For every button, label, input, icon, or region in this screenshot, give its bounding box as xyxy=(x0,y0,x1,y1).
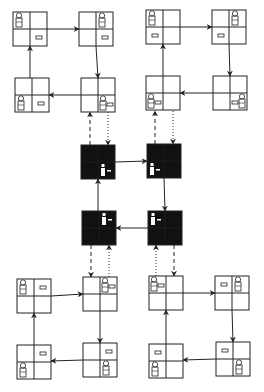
agent-icon xyxy=(150,163,154,175)
grid-state-box xyxy=(215,276,249,310)
transition-arrow-solid xyxy=(232,310,233,342)
bottom-right-cycle xyxy=(149,276,250,378)
bottom-left-cycle xyxy=(17,277,117,379)
transition-arrow-solid xyxy=(51,294,83,296)
transition-arrow-solid xyxy=(183,359,216,360)
grid-state-box xyxy=(79,12,113,46)
transition-arrow-solid xyxy=(229,44,230,76)
grid-state-box xyxy=(146,10,180,44)
abstract-state-box xyxy=(147,144,181,178)
grid-state-box xyxy=(15,78,49,112)
arrows-layer xyxy=(30,27,233,361)
grid-state-box xyxy=(83,277,117,311)
transition-arrow-solid xyxy=(115,161,147,162)
boxes-layer xyxy=(13,10,250,379)
center-abstract-cycle xyxy=(81,144,182,245)
grid-state-box xyxy=(213,76,247,110)
grid-state-box xyxy=(149,276,183,310)
top-right-cycle xyxy=(146,10,247,110)
grid-state-box xyxy=(17,279,51,313)
grid-state-box xyxy=(146,76,180,110)
agent-icon xyxy=(151,213,155,225)
grid-state-box xyxy=(83,343,117,377)
top-left-cycle xyxy=(13,12,115,112)
grid-state-box xyxy=(13,12,47,46)
state-transition-diagram xyxy=(0,0,264,392)
transition-arrow-solid xyxy=(164,178,165,211)
agent-icon xyxy=(102,213,106,225)
abstract-state-box xyxy=(81,145,115,179)
grid-state-box xyxy=(216,342,250,376)
key-icon xyxy=(156,169,160,171)
grid-state-box xyxy=(149,344,183,378)
agent-icon xyxy=(101,164,105,176)
key-icon xyxy=(157,219,161,221)
abstract-state-box xyxy=(148,211,182,245)
key-icon xyxy=(107,170,111,172)
transition-arrow-solid xyxy=(96,46,98,78)
transition-arrow-solid xyxy=(51,360,83,361)
grid-state-box xyxy=(17,345,51,379)
grid-state-box xyxy=(81,78,115,112)
abstract-state-box xyxy=(82,211,116,245)
key-icon xyxy=(108,219,112,221)
grid-state-box xyxy=(212,10,246,44)
